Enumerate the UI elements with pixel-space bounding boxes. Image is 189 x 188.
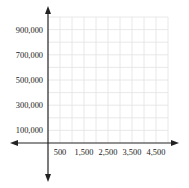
y-tick-label: 300,000 xyxy=(16,101,43,110)
y-tick-label: 700,000 xyxy=(16,51,43,60)
x-axis-arrow-left-icon xyxy=(10,140,18,146)
coordinate-plane: 5001,5002,5003,5004,500 900,000700,00050… xyxy=(0,0,189,188)
y-axis-arrow-up-icon xyxy=(45,6,51,14)
x-tick-label: 4,500 xyxy=(147,148,166,157)
y-tick-label: 500,000 xyxy=(16,76,43,85)
x-tick-label: 3,500 xyxy=(123,148,142,157)
y-tick-labels: 900,000700,000500,000300,000100,000 xyxy=(16,26,43,136)
x-tick-label: 2,500 xyxy=(99,148,118,157)
x-tick-labels: 5001,5002,5003,5004,500 xyxy=(54,148,166,157)
x-axis-arrow-right-icon xyxy=(171,140,179,146)
y-axis-arrow-down-icon xyxy=(45,174,51,182)
y-tick-label: 900,000 xyxy=(16,26,43,35)
x-tick-label: 1,500 xyxy=(75,148,94,157)
grid-lines xyxy=(48,17,168,143)
x-tick-label: 500 xyxy=(54,148,67,157)
y-tick-label: 100,000 xyxy=(16,126,43,135)
